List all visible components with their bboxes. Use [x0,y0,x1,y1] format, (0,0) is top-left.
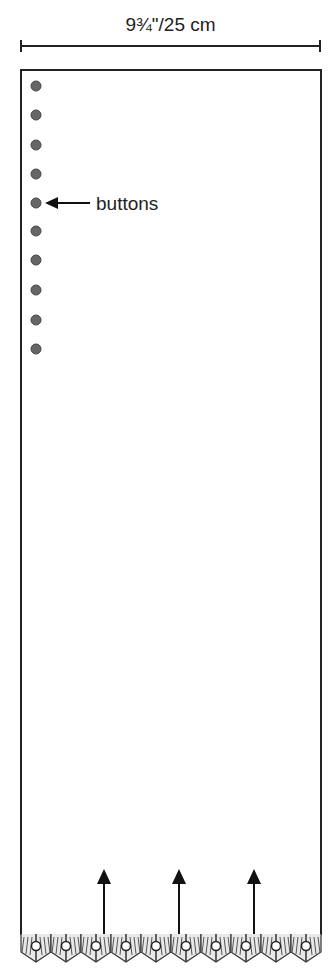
edging-scallop [111,934,141,962]
button-marker [31,285,41,295]
edging-scallop [201,934,231,962]
buttons-arrow-icon [45,197,90,209]
button-marker [31,140,41,150]
edging-scallop [261,934,291,962]
button-marker [31,226,41,236]
edging-scallop [81,934,111,962]
button-marker [31,110,41,120]
button-markers [31,81,41,354]
lace-edging [21,934,321,962]
button-marker [31,315,41,325]
button-marker [31,198,41,208]
button-marker [31,169,41,179]
width-dimension-line [21,40,320,52]
panel-outline [21,70,321,935]
edging-scallop [171,934,201,962]
edging-scallop [231,934,261,962]
arrow-up-icon [172,869,186,934]
direction-arrows [97,869,261,934]
arrow-up-icon [97,869,111,934]
edging-scallop [141,934,171,962]
edging-scallop [21,934,51,962]
button-marker [31,255,41,265]
edging-scallop [291,934,321,962]
schematic-drawing [0,0,331,980]
edging-scallop [51,934,81,962]
button-marker [31,344,41,354]
button-marker [31,81,41,91]
arrow-up-icon [247,869,261,934]
